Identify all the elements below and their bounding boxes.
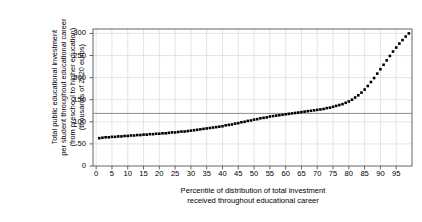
grid-lines [93, 29, 412, 166]
x-axis-title-line-2: received throughout educational career [92, 196, 414, 206]
x-tick-label: 95 [385, 170, 407, 178]
x-axis-title: Percentile of distribution of total inve… [92, 186, 414, 207]
chart-figure: Total public educational investment per … [0, 0, 422, 222]
axis-ticks [90, 33, 397, 169]
x-axis-title-line-1: Percentile of distribution of total inve… [92, 186, 414, 196]
plot-frame [93, 29, 412, 166]
x-axis-tick-labels: 05101520253035404550556065707580859095 [0, 170, 422, 184]
